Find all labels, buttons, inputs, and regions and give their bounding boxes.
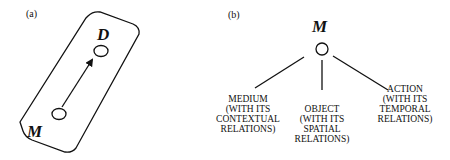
node-m-label: M [26,122,43,141]
child-action: ACTION (WITH ITS TEMPORAL RELATIONS) [378,84,433,125]
edge-action [333,56,388,90]
action-line-4: RELATIONS) [378,114,433,125]
medium-line-4: RELATIONS) [221,124,276,135]
node-d-label: D [96,25,109,44]
panel-a-label: (a) [26,8,37,20]
root-node-label: M [311,17,328,36]
diagram-canvas: (a) D M (b) M MEDIUM (WITH ITS CONTEXTUA… [0,0,450,160]
child-medium: MEDIUM (WITH ITS CONTEXTUAL RELATIONS) [216,94,280,135]
figure: (a) D M (b) M MEDIUM (WITH ITS CONTEXTUA… [0,0,450,160]
object-line-4: RELATIONS) [295,134,350,145]
action-line-1: ACTION [387,84,423,94]
panel-b-label: (b) [228,9,240,21]
action-line-3: TEMPORAL [379,104,430,114]
medium-line-3: CONTEXTUAL [216,114,280,124]
panel-a: (a) D M [20,8,139,152]
transition-arrow [62,60,92,107]
root-node-circle [316,43,328,55]
panel-b: (b) M MEDIUM (WITH ITS CONTEXTUAL RELATI… [216,9,432,145]
edge-medium [255,57,304,88]
object-line-3: SPATIAL [303,124,340,134]
node-d-circle [94,46,108,57]
medium-line-1: MEDIUM [228,94,268,104]
object-line-1: OBJECT [305,104,340,114]
child-object: OBJECT (WITH ITS SPATIAL RELATIONS) [295,104,350,145]
node-m-circle [52,109,66,120]
